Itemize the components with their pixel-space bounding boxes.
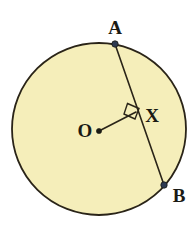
label-point-o: O — [78, 121, 93, 140]
point-o-dot — [96, 128, 101, 133]
label-point-b: B — [173, 186, 186, 205]
circle-diagram-figure: A O X B — [0, 0, 195, 226]
point-b-dot — [161, 182, 167, 188]
point-a-dot — [112, 41, 118, 47]
label-point-x: X — [145, 106, 159, 125]
label-point-a: A — [108, 18, 122, 37]
geometry-canvas — [0, 0, 195, 226]
